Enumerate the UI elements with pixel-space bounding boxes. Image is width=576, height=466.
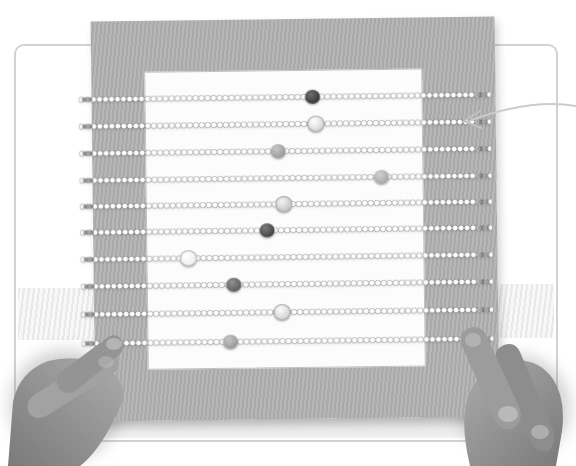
- rod-2-right-tip: [476, 120, 487, 124]
- photo-frame: [0, 0, 576, 466]
- rod-9-right-tip: [478, 308, 489, 312]
- rod-6-right-tip: [477, 226, 488, 230]
- accent-bead-row-1: [305, 90, 320, 104]
- rod-7-right-tip: [477, 253, 488, 257]
- accent-bead-row-6: [260, 223, 275, 237]
- rod-8-left-tip: [84, 284, 95, 288]
- accent-bead-row-10: [223, 335, 238, 349]
- cardboard-board: [91, 17, 500, 422]
- accent-bead-row-9: [274, 304, 291, 320]
- accent-bead-row-3: [271, 144, 286, 158]
- rod-9: [81, 306, 493, 319]
- rod-7-left-tip: [83, 257, 94, 261]
- rod-10-left-tip: [84, 341, 95, 345]
- accent-bead-row-4: [374, 170, 389, 184]
- accent-bead-row-8: [226, 278, 241, 292]
- rod-1-left-tip: [82, 97, 93, 101]
- rod-10-right-tip: [478, 337, 489, 341]
- rod-4-right-tip: [476, 174, 487, 178]
- accent-bead-row-2: [307, 116, 324, 132]
- rods: [91, 17, 495, 22]
- rod-3-right-tip: [476, 147, 487, 151]
- rod-6-left-tip: [83, 230, 94, 234]
- accent-bead-row-7: [180, 250, 197, 266]
- rod-5: [80, 198, 492, 211]
- rod-5-right-tip: [477, 200, 488, 204]
- paper-square: [144, 68, 426, 369]
- rod-9-left-tip: [84, 312, 95, 316]
- accent-bead-row-5: [275, 196, 292, 212]
- rod-2-left-tip: [82, 124, 93, 128]
- rod-8-right-tip: [478, 280, 489, 284]
- rod-1-right-tip: [475, 93, 486, 97]
- rod-5-left-tip: [83, 204, 94, 208]
- rod-3-left-tip: [82, 151, 93, 155]
- rod-4-left-tip: [82, 178, 93, 182]
- card-shading-right: [496, 284, 554, 338]
